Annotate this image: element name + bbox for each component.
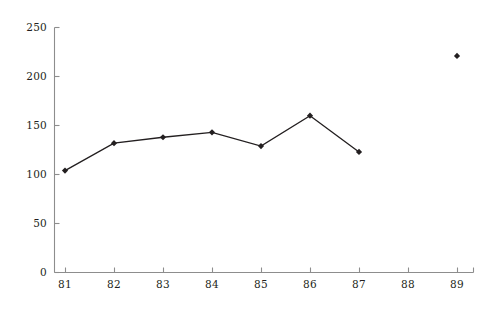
data-point-marker (258, 143, 264, 149)
figure-caption (0, 303, 490, 314)
y-tick-marks (55, 28, 60, 273)
x-tick-label: 87 (352, 278, 366, 290)
line-chart: 250 200 150 100 50 0 81 82 83 84 85 86 8… (0, 0, 490, 314)
y-tick-label: 200 (26, 70, 47, 82)
x-tick-label: 81 (58, 278, 72, 290)
series-line-path (65, 116, 359, 171)
x-tick-label: 89 (450, 278, 464, 290)
data-series-1 (62, 53, 460, 174)
x-tick-marks (66, 268, 474, 273)
y-tick-label: 100 (26, 168, 47, 180)
y-tick-label: 250 (26, 21, 47, 33)
data-point-marker (111, 140, 117, 146)
x-tick-label: 82 (107, 278, 121, 290)
y-tick-label: 0 (40, 266, 47, 278)
data-point-marker (160, 134, 166, 140)
data-point-marker (209, 129, 215, 135)
data-point-marker (454, 53, 460, 59)
figure-container: 250 200 150 100 50 0 81 82 83 84 85 86 8… (0, 0, 490, 314)
x-tick-label: 83 (156, 278, 170, 290)
x-tick-labels: 81 82 83 84 85 86 87 88 89 (58, 278, 464, 290)
y-tick-label: 150 (26, 119, 47, 131)
y-tick-label: 50 (33, 217, 47, 229)
x-tick-label: 88 (401, 278, 415, 290)
series-markers (62, 53, 460, 174)
x-tick-label: 85 (254, 278, 268, 290)
x-tick-label: 84 (205, 278, 219, 290)
data-point-marker (62, 167, 68, 173)
y-tick-labels: 250 200 150 100 50 0 (26, 21, 47, 278)
x-tick-label: 86 (303, 278, 317, 290)
